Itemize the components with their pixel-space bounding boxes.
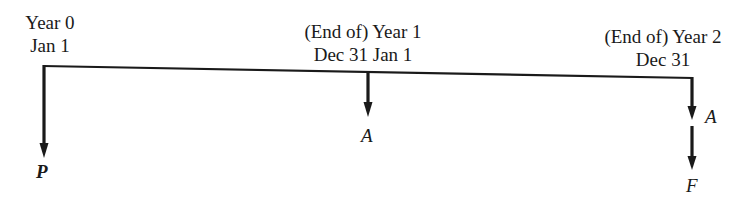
cash-flow-label-a-year2: A: [705, 107, 717, 127]
arrow-down-icon: [688, 77, 697, 120]
arrow-down-icon: [364, 72, 373, 117]
cash-flow-label-p: P: [36, 162, 48, 182]
cash-flow-label-f: F: [686, 176, 698, 196]
arrow-down-icon: [688, 126, 697, 170]
timeline-graphic: [0, 0, 751, 208]
arrow-down-icon: [40, 65, 49, 158]
cash-flow-label-a-year1: A: [361, 126, 373, 146]
